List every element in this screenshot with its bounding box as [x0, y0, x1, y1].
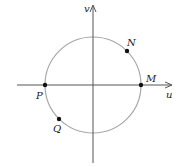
u-axis-label: u — [166, 89, 172, 100]
point-m — [139, 83, 143, 87]
point-m-label: M — [145, 73, 157, 84]
point-n-label: N — [126, 37, 137, 48]
uv-plane-diagram: u v N M P Q — [0, 0, 181, 167]
v-axis — [90, 5, 96, 163]
v-axis-label: v — [84, 3, 90, 14]
diagram-canvas: u v N M P Q — [0, 0, 181, 167]
point-n — [125, 49, 129, 53]
point-p-label: P — [35, 90, 43, 101]
point-q — [57, 117, 61, 121]
point-p — [43, 83, 47, 87]
point-q-label: Q — [53, 123, 61, 134]
